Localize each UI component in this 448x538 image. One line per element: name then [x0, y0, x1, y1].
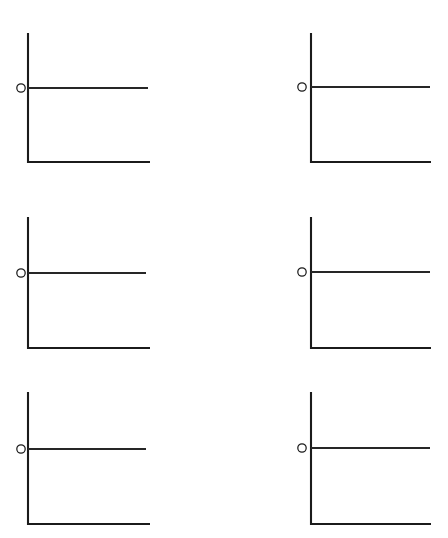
axis-diagram-svg	[0, 211, 160, 361]
axis-panel-bottom-right	[283, 387, 443, 537]
page-root	[0, 0, 448, 538]
axis-diagram-svg	[283, 387, 443, 537]
axis-panel-top-right	[283, 25, 443, 175]
open-circle-marker	[17, 445, 25, 453]
panel-grid	[0, 0, 448, 538]
axis-panel-bottom-left	[0, 387, 160, 537]
axis-diagram-svg	[0, 25, 160, 175]
axis-diagram-svg	[283, 25, 443, 175]
open-circle-marker	[298, 268, 306, 276]
open-circle-marker	[17, 269, 25, 277]
open-circle-marker	[298, 83, 306, 91]
axis-panel-middle-right	[283, 211, 443, 361]
open-circle-marker	[298, 444, 306, 452]
axis-diagram-svg	[283, 211, 443, 361]
axis-diagram-svg	[0, 387, 160, 537]
open-circle-marker	[17, 84, 25, 92]
axis-panel-middle-left	[0, 211, 160, 361]
axis-panel-top-left	[0, 25, 160, 175]
